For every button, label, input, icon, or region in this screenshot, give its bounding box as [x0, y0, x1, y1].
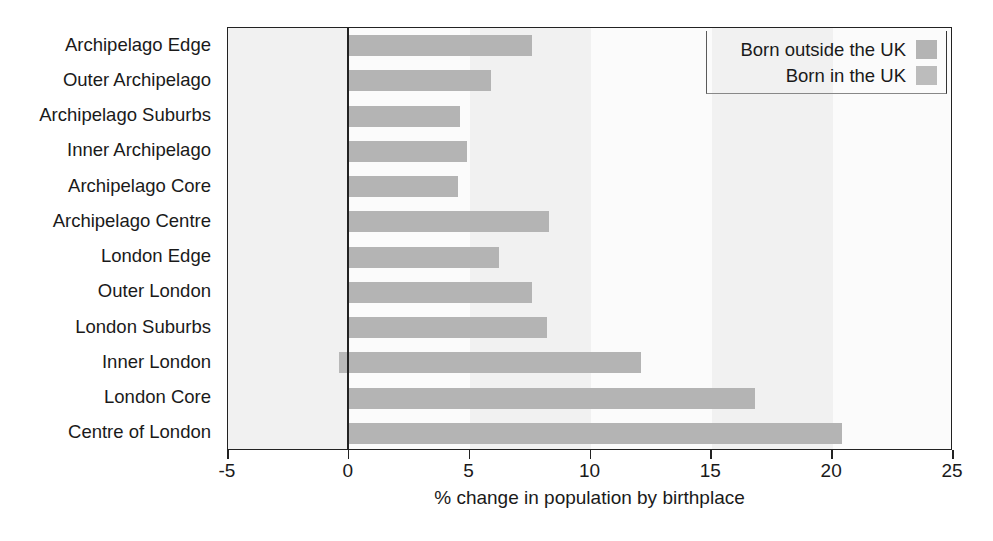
x-tick-mark: [469, 450, 471, 459]
category-label: Archipelago Edge: [0, 35, 219, 55]
category-axis-labels: Archipelago EdgeOuter ArchipelagoArchipe…: [0, 27, 219, 450]
x-axis-title: % change in population by birthplace: [227, 487, 952, 509]
category-label: Inner London: [0, 352, 219, 372]
bar: [349, 106, 460, 127]
bar: [349, 141, 467, 162]
category-label: Archipelago Suburbs: [0, 105, 219, 125]
x-tick-mark: [952, 450, 954, 459]
x-tick-mark: [348, 450, 350, 459]
category-label: Inner Archipelago: [0, 140, 219, 160]
value-axis-ticks: -50510152025: [227, 450, 952, 490]
x-tick-label: 0: [343, 460, 354, 482]
bar: [349, 423, 842, 444]
x-tick-label: 25: [941, 460, 962, 482]
chart-legend: Born outside the UK Born in the UK: [706, 31, 947, 94]
bar: [349, 317, 547, 338]
x-tick-mark: [710, 450, 712, 459]
legend-item-label: Born in the UK: [786, 65, 906, 86]
bar: [349, 176, 458, 197]
x-tick-label: 10: [579, 460, 600, 482]
category-label: Outer London: [0, 281, 219, 301]
bar: [349, 211, 550, 232]
legend-item-label: Born outside the UK: [740, 39, 906, 60]
background-band: [228, 28, 349, 449]
legend-swatch-icon: [916, 66, 937, 85]
x-tick-mark: [831, 450, 833, 459]
x-tick-label: 5: [463, 460, 474, 482]
x-tick-label: -5: [219, 460, 236, 482]
category-label: Archipelago Centre: [0, 211, 219, 231]
legend-item[interactable]: Born outside the UK: [740, 39, 937, 60]
bar: [349, 70, 492, 91]
category-label: London Suburbs: [0, 317, 219, 337]
bar: [349, 282, 533, 303]
legend-item[interactable]: Born in the UK: [786, 65, 937, 86]
category-label: London Core: [0, 387, 219, 407]
category-label: Outer Archipelago: [0, 70, 219, 90]
bar: [349, 35, 533, 56]
bar: [349, 388, 755, 409]
legend-swatch-icon: [916, 40, 937, 59]
bar: [349, 247, 499, 268]
population-change-bar-chart: Archipelago EdgeOuter ArchipelagoArchipe…: [0, 0, 993, 541]
category-label: Centre of London: [0, 422, 219, 442]
x-tick-label: 15: [700, 460, 721, 482]
x-tick-mark: [227, 450, 229, 459]
x-tick-mark: [590, 450, 592, 459]
category-label: Archipelago Core: [0, 176, 219, 196]
zero-axis-line: [347, 28, 349, 449]
x-tick-label: 20: [821, 460, 842, 482]
bar: [349, 352, 641, 373]
category-label: London Edge: [0, 246, 219, 266]
